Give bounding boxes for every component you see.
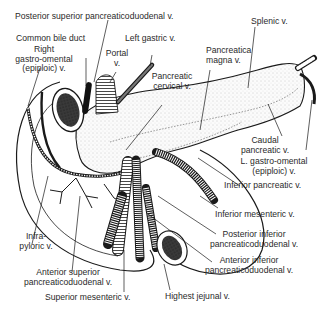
label-anterior-inferior-pancreaticoduodenal-vein: Anterior inferior pancreaticoduodenal v.	[194, 256, 304, 275]
label-portal-vein: Portal v.	[104, 49, 130, 68]
label-posterior-superior-pancreaticoduodenal-vein: Posterior superior pancreaticoduodenal v…	[15, 12, 173, 22]
label-superior-mesenteric-vein: Superior mesenteric v.	[45, 293, 130, 303]
label-highest-jejunal-vein: Highest jejunal v.	[165, 292, 230, 302]
label-pancreatic-cervical-vein: Pancreatic cervical v.	[146, 72, 198, 91]
label-left-gastro-omental-vein: L. gastro-omental (epiploic) v.	[236, 157, 312, 176]
inferior-mesenteric-vein	[156, 152, 214, 200]
label-posterior-inferior-pancreaticoduodenal-vein: Posterior inferior pancreaticoduodenal v…	[202, 230, 306, 249]
label-caudal-pancreatic-vein: Caudal pancreatic v.	[234, 136, 296, 155]
label-inferior-pancreatic-vein: Inferior pancreatic v.	[224, 181, 301, 191]
label-anterior-superior-pancreaticoduodenal-vein: Anterior superior pancreaticoduodenal v.	[14, 268, 122, 287]
portal-vein	[96, 75, 118, 114]
label-left-gastric-vein: Left gastric v.	[125, 34, 175, 44]
label-pancreatica-magna-vein: Pancreatica magna v.	[206, 46, 251, 65]
label-inferior-mesenteric-vein: Inferior mesenteric v.	[215, 210, 295, 220]
label-infrapyloric-vein: Infra- pyloric v.	[14, 232, 58, 251]
infrapyloric-branches	[50, 178, 126, 208]
pancreas-venous-diagram: Posterior superior pancreaticoduodenal v…	[0, 0, 328, 314]
label-common-bile-duct: Common bile duct	[16, 34, 85, 44]
label-splenic-vein: Splenic v.	[251, 17, 288, 27]
label-right-gastro-omental-vein: Right gastro-omental (epiploic) v.	[14, 45, 74, 74]
